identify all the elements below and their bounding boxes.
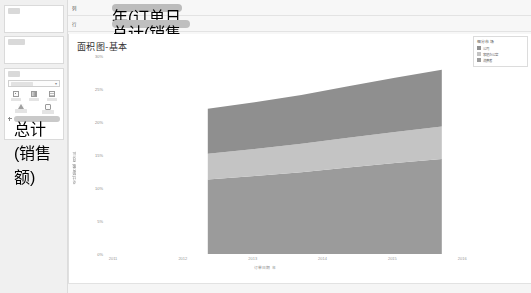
marks-size-button[interactable]: 大小 [25, 90, 43, 102]
x-tick-label: 2016 [458, 256, 467, 261]
y-tick-label: 20% [79, 120, 103, 125]
chart-plot-area: 总计(销售额) 百分比 0%5%10%15%20%25%30% 20112012… [69, 56, 469, 274]
detail-icon [18, 104, 24, 109]
legend-item[interactable]: 消费者 [477, 58, 524, 63]
shelf-area: 列 年(订单日期) 行 总计(销售额) 百分比 [68, 0, 531, 34]
x-tick-label: 2013 [248, 256, 257, 261]
label-icon [49, 91, 55, 97]
legend-item-label: 消费者 [483, 58, 492, 63]
marks-detail-button[interactable]: 详细信息 [7, 103, 34, 115]
marks-card-pill-row: 总计(销售额) [5, 115, 63, 122]
legend-swatch [477, 58, 481, 62]
y-tick-label: 5% [79, 219, 103, 224]
x-tick-label: 2011 [109, 256, 118, 261]
legend-item-label: 家庭办公室 [483, 52, 498, 57]
rows-shelf-label: 行 [72, 21, 98, 27]
legend-item-label: 公司 [483, 46, 489, 51]
tooltip-icon [45, 104, 51, 110]
measure-icon [8, 117, 12, 121]
status-bar [68, 283, 531, 293]
mark-property-buttons-row1: 颜色 大小 标签 [5, 89, 63, 102]
y-axis-title: 总计(销售额) 百分比 [71, 152, 76, 184]
x-axis-title: 订单日期 年 [254, 265, 277, 270]
filters-shelf-label: 筛选器 [5, 37, 63, 46]
x-tick-label: 2012 [178, 256, 187, 261]
color-legend[interactable]: 细分市场 公司家庭办公室消费者 [473, 36, 528, 67]
marks-label-button[interactable]: 标签 [43, 90, 61, 102]
x-tick-label: 2014 [318, 256, 327, 261]
y-tick-label: 10% [79, 186, 103, 191]
page-title: 面积图-基本 [77, 40, 127, 53]
chevron-down-icon: ▾ [55, 82, 57, 86]
area-chart-svg [107, 56, 467, 254]
columns-shelf[interactable]: 列 年(订单日期) [68, 0, 531, 16]
y-tick-label: 25% [79, 87, 103, 92]
legend-item[interactable]: 家庭办公室 [477, 52, 524, 57]
y-tick-label: 15% [79, 153, 103, 158]
mark-property-buttons-row2: 详细信息 工具提示 [5, 102, 63, 115]
tableau-worksheet-window: 页面 筛选器 标记 自动 ▾ 颜色 大 [0, 0, 531, 293]
size-icon [31, 91, 37, 97]
x-tick-label: 2015 [388, 256, 397, 261]
pages-shelf-panel[interactable]: 页面 [4, 5, 64, 33]
columns-pill-order-date[interactable]: 年(订单日期) [112, 4, 182, 12]
legend-swatch [477, 52, 481, 56]
mark-type-dropdown[interactable]: 自动 ▾ [8, 80, 60, 87]
legend-title: 细分市场 [477, 39, 524, 44]
legend-swatch [477, 46, 481, 50]
rows-shelf[interactable]: 行 总计(销售额) 百分比 [68, 16, 531, 32]
y-tick-label: 30% [79, 54, 103, 59]
marks-tooltip-button[interactable]: 工具提示 [34, 103, 61, 115]
pages-shelf-label: 页面 [5, 6, 63, 15]
color-icon [13, 91, 19, 97]
y-tick-label: 0% [79, 252, 103, 257]
worksheet-canvas: 面积图-基本 总计(销售额) 百分比 0%5%10%15%20%25%30% 2… [68, 34, 531, 293]
left-sidebar: 页面 筛选器 标记 自动 ▾ 颜色 大 [0, 0, 68, 293]
marks-measure-pill[interactable]: 总计(销售额) [14, 116, 60, 122]
columns-shelf-label: 列 [72, 5, 98, 11]
legend-item[interactable]: 公司 [477, 46, 524, 51]
marks-card-panel[interactable]: 标记 自动 ▾ 颜色 大小 标签 [4, 68, 64, 140]
marks-color-button[interactable]: 颜色 [7, 90, 25, 102]
rows-pill-sales-percent[interactable]: 总计(销售额) 百分比 [112, 20, 190, 28]
filters-shelf-panel[interactable]: 筛选器 [4, 36, 64, 64]
marks-card-label: 标记 [5, 69, 63, 78]
legend-items: 公司家庭办公室消费者 [477, 46, 524, 63]
